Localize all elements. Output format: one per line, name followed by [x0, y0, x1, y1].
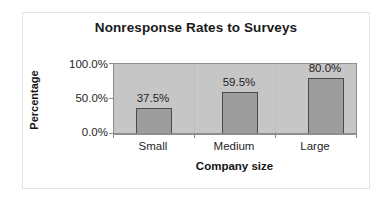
y-tick-label-100: 100.0% [52, 58, 108, 70]
y-axis-title: Percentage [28, 55, 40, 145]
bar-value-label-medium: 59.5% [204, 76, 274, 88]
category-divider [275, 64, 276, 134]
y-axis-tick-labels: 100.0% 50.0% 0.0% [52, 0, 108, 205]
y-tick-label-0: 0.0% [52, 126, 108, 138]
x-tick-mark [194, 134, 195, 138]
chart-canvas: Nonresponse Rates to Surveys Percentage … [0, 0, 392, 205]
y-tick-label-50: 50.0% [52, 92, 108, 104]
x-tick-mark [113, 134, 114, 138]
x-category-label-medium: Medium [194, 140, 274, 152]
bar-value-label-large: 80.0% [290, 62, 360, 74]
bar-large [308, 78, 344, 134]
x-tick-mark [356, 134, 357, 138]
x-axis-line [113, 133, 356, 134]
bar-small [136, 108, 172, 134]
x-tick-mark [275, 134, 276, 138]
category-divider [194, 64, 195, 134]
x-category-label-small: Small [113, 140, 193, 152]
x-category-label-large: Large [275, 140, 355, 152]
x-axis-title: Company size [113, 160, 356, 172]
bar-value-label-small: 37.5% [118, 92, 188, 104]
bar-medium [222, 92, 258, 134]
